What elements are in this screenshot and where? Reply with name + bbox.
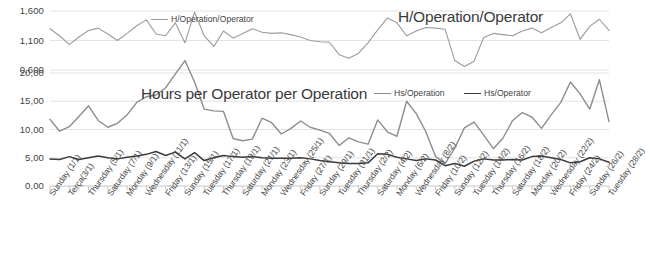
legend-item-hs-operator[interactable]: Hs/Operator [464, 88, 531, 98]
legend-label-h-operation-operator: H/Operation/Operator [171, 14, 254, 24]
legend-swatch-hs-operation [374, 93, 391, 94]
legend-swatch-h-operation-operator [151, 19, 168, 20]
legend-label-hs-operator: Hs/Operator [484, 88, 531, 98]
annotation-secondary-callout: H/Operation/Operator [398, 8, 543, 26]
primary-y-tick-label: 5,00 [0, 152, 44, 163]
legend-label-hs-operation: Hs/Operation [394, 88, 445, 98]
legend-swatch-hs-operator [464, 93, 481, 94]
primary-y-tick-label: 15,00 [0, 95, 44, 106]
secondary-y-tick-label: 1,600 [0, 5, 44, 16]
primary-y-tick-label: 20,00 [0, 67, 44, 78]
secondary-y-tick-label: 1,100 [0, 35, 44, 46]
primary-y-tick-label: 0,00 [0, 180, 44, 191]
legend-item-h-operation-operator[interactable]: H/Operation/Operator [151, 14, 254, 24]
primary-y-tick-label: 10,00 [0, 124, 44, 135]
annotation-primary-callout: Hours per Operator per Operation [141, 85, 367, 103]
legend-item-hs-operation[interactable]: Hs/Operation [374, 88, 445, 98]
